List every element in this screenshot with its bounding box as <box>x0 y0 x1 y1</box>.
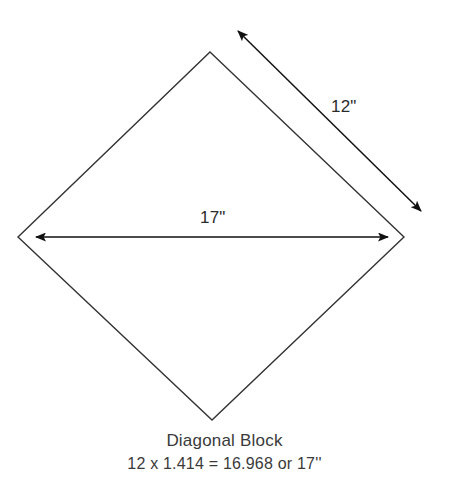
diagonal-block-diagram <box>0 0 449 501</box>
side-dimension-arrow <box>238 31 421 211</box>
caption-title: Diagonal Block <box>0 430 449 452</box>
diagram-page: 12" 17" Diagonal Block 12 x 1.414 = 16.9… <box>0 0 449 501</box>
diagonal-dimension-label: 17" <box>200 208 226 228</box>
caption: Diagonal Block 12 x 1.414 = 16.968 or 17… <box>0 430 449 476</box>
caption-formula: 12 x 1.414 = 16.968 or 17'' <box>0 452 449 476</box>
side-dimension-label: 12" <box>331 97 357 117</box>
